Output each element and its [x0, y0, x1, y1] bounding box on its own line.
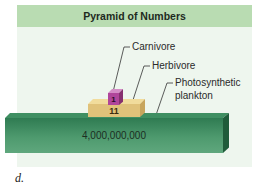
carnivore-count: 1	[111, 95, 115, 104]
plankton-block-side	[223, 113, 229, 153]
herbivore-block: 11	[88, 104, 140, 117]
carnivore-label: Carnivore	[132, 41, 175, 53]
herbivore-count: 11	[109, 106, 119, 116]
carnivore-block: 1	[108, 93, 119, 105]
figure-caption: d.	[15, 171, 24, 186]
plankton-count: 4,000,000,000	[82, 130, 146, 141]
plankton-label-line2: plankton	[175, 90, 213, 102]
plankton-block: 4,000,000,000	[5, 118, 223, 153]
plankton-label-line1: Photosynthetic	[175, 77, 241, 89]
herbivore-label: Herbivore	[152, 60, 195, 72]
leader-lines	[0, 0, 258, 187]
